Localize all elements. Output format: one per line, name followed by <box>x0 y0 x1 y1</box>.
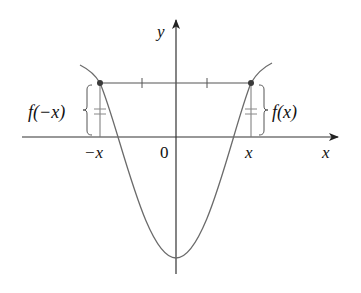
neg-x-tick-label: −x <box>84 143 103 162</box>
left-brace-icon <box>83 85 92 135</box>
f-x-label: f(x) <box>272 102 297 123</box>
f-neg-x-label: f(−x) <box>28 102 65 123</box>
right-point <box>248 80 254 86</box>
diagram-svg: y x 0 −x x f(−x) f(x) <box>0 0 361 293</box>
left-point <box>97 80 103 86</box>
origin-label: 0 <box>160 143 169 162</box>
y-axis-label: y <box>155 22 165 41</box>
even-function-diagram: y x 0 −x x f(−x) f(x) <box>0 0 361 293</box>
right-brace-icon <box>259 85 268 135</box>
x-tick-label: x <box>244 143 253 162</box>
x-axis-label: x <box>321 143 330 162</box>
